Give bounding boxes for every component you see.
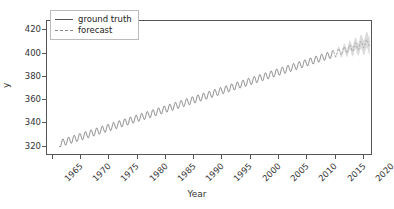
x-tick-mark (306, 155, 307, 159)
y-tick-mark (42, 29, 46, 30)
x-tick-mark (335, 155, 336, 159)
x-tick-label: 1975 (119, 161, 141, 183)
x-tick-label: 1970 (90, 161, 112, 183)
x-tick-label: 1985 (175, 161, 197, 183)
x-axis-label: Year (0, 189, 394, 199)
legend-line-swatch-dashed-icon (55, 27, 73, 35)
x-tick-mark (193, 155, 194, 159)
y-tick-mark (42, 146, 46, 147)
y-tick-label: 340 (25, 117, 41, 127)
x-tick-label: 1990 (203, 161, 225, 183)
plot-svg (47, 21, 371, 154)
x-tick-label: 1995 (232, 161, 254, 183)
legend-label-ground-truth: ground truth (78, 14, 132, 25)
x-tick-label: 1965 (62, 161, 84, 183)
forecast-confidence-band (334, 32, 370, 58)
plot-area (46, 20, 372, 155)
x-tick-mark (165, 155, 166, 159)
x-tick-label: 2005 (288, 161, 310, 183)
chart-figure: y 320340360380400420 1965197019751980198… (0, 0, 394, 209)
y-tick-label: 380 (25, 71, 41, 81)
legend-line-swatch-solid-icon (55, 16, 73, 24)
y-tick-mark (42, 76, 46, 77)
x-tick-mark (137, 155, 138, 159)
x-tick-mark (363, 155, 364, 159)
x-tick-label: 2015 (345, 161, 367, 183)
y-tick-label: 400 (25, 48, 41, 58)
legend-item-ground-truth: ground truth (55, 14, 132, 25)
legend-label-forecast: forecast (78, 25, 112, 36)
y-tick-label: 420 (25, 24, 41, 34)
y-tick-mark (42, 53, 46, 54)
y-tick-mark (42, 122, 46, 123)
ground-truth-line (59, 50, 333, 147)
x-tick-mark (80, 155, 81, 159)
legend-item-forecast: forecast (55, 25, 132, 36)
x-tick-mark (221, 155, 222, 159)
y-tick-label: 360 (25, 94, 41, 104)
x-tick-label: 2020 (373, 161, 394, 183)
y-tick-mark (42, 99, 46, 100)
x-tick-mark (278, 155, 279, 159)
x-tick-label: 2000 (260, 161, 282, 183)
x-tick-mark (250, 155, 251, 159)
x-tick-mark (52, 155, 53, 159)
x-tick-label: 1980 (147, 161, 169, 183)
x-tick-label: 2010 (317, 161, 339, 183)
y-axis-tick-labels: 320340360380400420 (0, 0, 41, 209)
x-tick-mark (108, 155, 109, 159)
y-tick-label: 320 (25, 141, 41, 151)
chart-legend: ground truth forecast (50, 10, 139, 40)
confidence-band-group (334, 32, 370, 58)
